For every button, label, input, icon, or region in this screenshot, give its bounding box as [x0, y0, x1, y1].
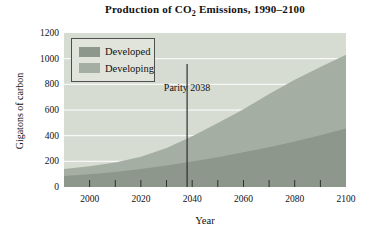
y-tick-label: 0 — [0, 181, 59, 193]
legend-label-developing: Developing — [105, 63, 154, 74]
y-tick-label: 600 — [0, 104, 59, 116]
legend-swatch-developed — [79, 47, 100, 57]
parity-annotation: Parity 2038 — [142, 82, 232, 93]
chart-title-prefix: Production of CO — [105, 3, 192, 15]
legend: Developed Developing — [71, 38, 155, 82]
y-tick-label: 1000 — [0, 53, 59, 65]
chart-title-suffix: Emissions, 1990–2100 — [196, 3, 305, 15]
y-tick-label: 200 — [0, 155, 59, 167]
y-tick-label: 800 — [0, 78, 59, 90]
x-tick-label: 2040 — [172, 193, 212, 205]
x-axis-label: Year — [64, 215, 346, 226]
co2-emissions-figure: Production of CO2 Emissions, 1990–2100 D… — [0, 0, 372, 246]
x-tick-label: 2100 — [326, 193, 366, 205]
x-tick-label: 2080 — [275, 193, 315, 205]
y-tick-label: 400 — [0, 130, 59, 142]
legend-label-developed: Developed — [105, 46, 150, 57]
x-tick-label: 2060 — [223, 193, 263, 205]
legend-item-developed: Developed — [79, 46, 154, 57]
x-tick-label: 2020 — [121, 193, 161, 205]
x-tick-label: 2000 — [70, 193, 110, 205]
y-tick-label: 1200 — [0, 27, 59, 39]
chart-title: Production of CO2 Emissions, 1990–2100 — [64, 3, 346, 15]
legend-swatch-developing — [79, 63, 100, 73]
legend-item-developing: Developing — [79, 63, 154, 74]
